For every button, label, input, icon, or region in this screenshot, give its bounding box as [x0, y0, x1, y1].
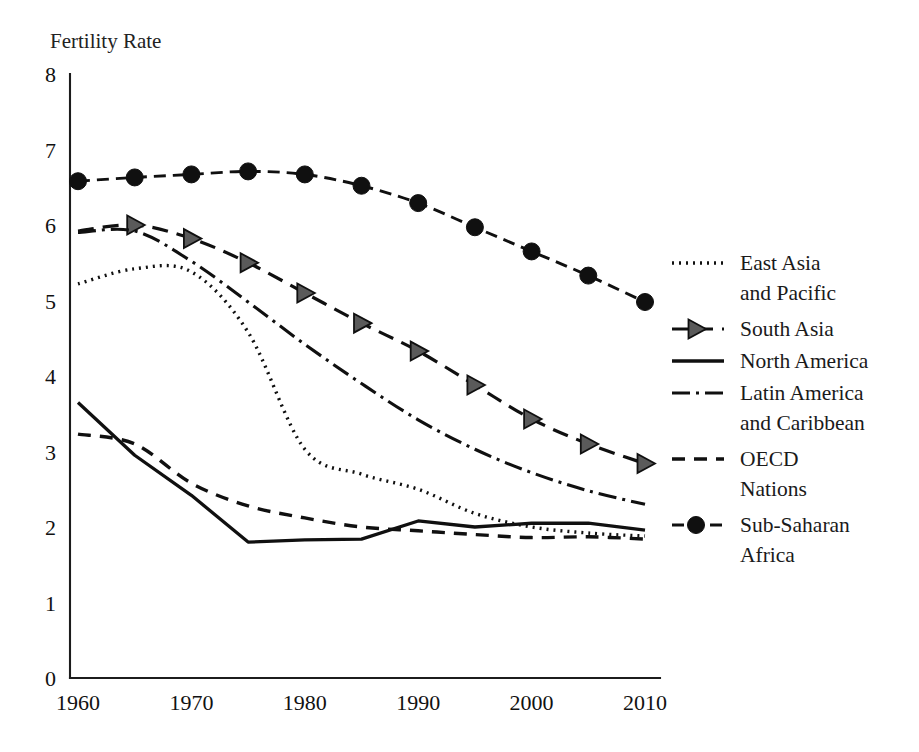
y-tick-label: 2 — [45, 515, 56, 540]
y-tick-label: 3 — [45, 440, 56, 465]
series-marker — [296, 166, 313, 183]
series-marker — [70, 173, 87, 190]
legend-label: and Pacific — [740, 281, 836, 305]
series-marker — [637, 294, 654, 311]
legend-label: North America — [740, 349, 869, 373]
series-marker — [183, 166, 200, 183]
series-marker — [523, 243, 540, 260]
legend-marker — [688, 517, 705, 534]
x-tick-label: 1990 — [396, 690, 440, 715]
legend-label: Sub-Saharan — [740, 513, 850, 537]
legend-label: Africa — [740, 543, 795, 567]
y-tick-label: 4 — [45, 364, 56, 389]
x-tick-label: 1970 — [169, 690, 213, 715]
y-tick-label: 7 — [45, 138, 56, 163]
chart-background — [0, 0, 919, 752]
y-tick-label: 8 — [45, 62, 56, 87]
legend-label: and Caribbean — [740, 411, 865, 435]
legend-label: Nations — [740, 477, 807, 501]
y-tick-label: 0 — [45, 666, 56, 691]
series-marker — [410, 195, 427, 212]
series-marker — [240, 163, 257, 180]
series-marker — [580, 267, 597, 284]
y-axis-title: Fertility Rate — [50, 29, 161, 53]
x-tick-label: 1980 — [283, 690, 327, 715]
series-marker — [353, 177, 370, 194]
legend-label: South Asia — [740, 317, 834, 341]
series-marker — [466, 219, 483, 236]
y-tick-label: 1 — [45, 591, 56, 616]
y-tick-label: 5 — [45, 289, 56, 314]
legend-label: Latin America — [740, 381, 864, 405]
y-tick-label: 6 — [45, 213, 56, 238]
x-tick-label: 1960 — [56, 690, 100, 715]
x-tick-label: 2000 — [510, 690, 554, 715]
x-tick-label: 2010 — [623, 690, 667, 715]
series-marker — [126, 169, 143, 186]
y-axis-tick-labels: 012345678 — [45, 62, 56, 691]
fertility-rate-line-chart: Fertility Rate 012345678 196019701980199… — [0, 0, 919, 752]
legend-label: East Asia — [740, 251, 821, 275]
legend-label: OECD — [740, 447, 799, 471]
